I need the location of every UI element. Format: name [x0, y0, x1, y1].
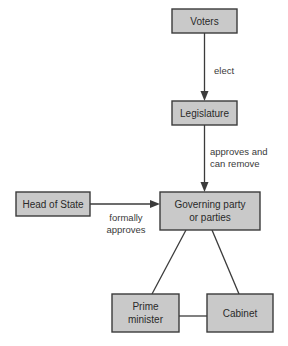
- node-cabinet[interactable]: Cabinet: [207, 294, 273, 332]
- edge-label-can-remove: can remove: [210, 158, 260, 169]
- edge-label-elect: elect: [214, 65, 234, 76]
- edge-governing-party-to-prime-minister: [152, 230, 186, 294]
- node-head-of-state[interactable]: Head of State: [16, 192, 90, 216]
- edge-voters-to-legislature: elect: [201, 33, 235, 101]
- edge-head-of-state-to-governing-party: formally approves: [90, 200, 160, 235]
- node-label-cabinet: Cabinet: [223, 308, 258, 319]
- arrowhead-icon: [201, 91, 209, 101]
- edge-line: [212, 230, 239, 294]
- node-label-head-of-state: Head of State: [22, 199, 84, 210]
- edge-line: [152, 230, 186, 294]
- node-label-voters: Voters: [190, 16, 218, 27]
- node-label-governing-party-line2: or parties: [189, 212, 231, 223]
- node-label-prime-minister-line2: minister: [128, 314, 164, 325]
- node-label-prime-minister-line1: Prime: [132, 301, 159, 312]
- node-label-governing-party-line1: Governing party: [174, 199, 245, 210]
- edge-governing-party-to-cabinet: [212, 230, 239, 294]
- node-label-legislature: Legislature: [180, 108, 229, 119]
- edge-label-approves: approves: [106, 224, 145, 235]
- node-prime-minister[interactable]: Prime minister: [112, 294, 179, 332]
- node-legislature[interactable]: Legislature: [172, 101, 237, 125]
- edge-label-formally: formally: [109, 212, 143, 223]
- diagram-svg: elect approves and can remove formally a…: [0, 0, 288, 346]
- arrowhead-icon: [150, 200, 160, 208]
- arrowhead-icon: [201, 182, 209, 192]
- edge-label-approves-and: approves and: [210, 146, 268, 157]
- diagram-canvas: elect approves and can remove formally a…: [0, 0, 288, 346]
- node-voters[interactable]: Voters: [172, 9, 237, 33]
- node-governing-party[interactable]: Governing party or parties: [160, 192, 260, 230]
- edge-legislature-to-governing-party: approves and can remove: [201, 125, 268, 192]
